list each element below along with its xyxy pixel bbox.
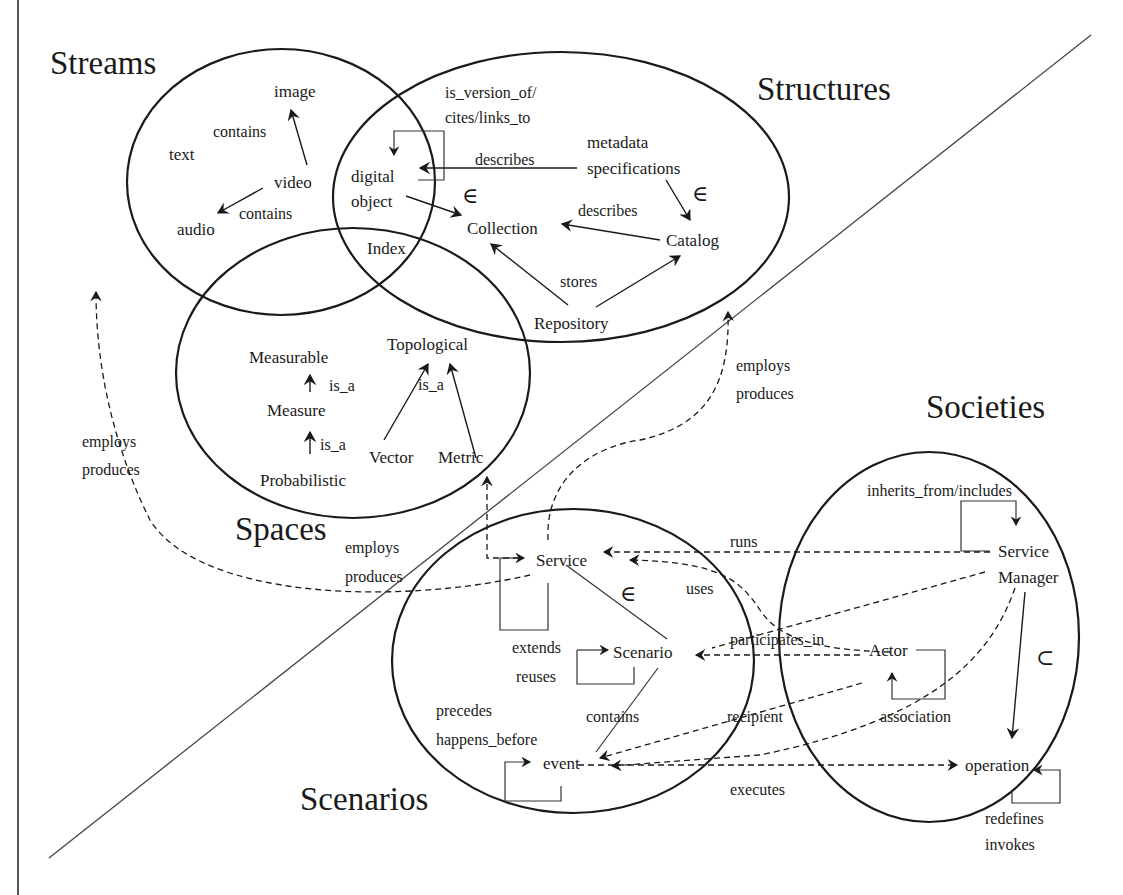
edge-inherits-from-includes: inherits_from/includes <box>867 482 1012 499</box>
dashed-manager-scenario <box>712 572 985 648</box>
societies-title: Societies <box>926 389 1045 425</box>
edge-recipient: recipient <box>727 708 784 726</box>
edge-contains-event: contains <box>586 708 639 725</box>
arrow-vector-topological <box>384 364 428 440</box>
edge-employs-streams: employs <box>82 433 136 451</box>
node-probabilistic: Probabilistic <box>260 471 346 490</box>
streams-title: Streams <box>50 45 156 81</box>
node-actor: Actor <box>869 641 908 660</box>
edge-is-a-probabilistic: is_a <box>320 436 346 453</box>
edge-executes: executes <box>730 781 785 798</box>
arrow-catalog-collection <box>562 224 660 240</box>
node-service-manager-line1: Service <box>998 542 1049 561</box>
node-operation: operation <box>965 756 1030 775</box>
edge-redefines: redefines <box>985 810 1044 827</box>
edge-precedes: precedes <box>436 702 492 720</box>
self-loop-event <box>505 762 530 801</box>
node-specifications: specifications <box>587 159 680 178</box>
concept-map-diagram: Streams Structures Spaces Scenarios Soci… <box>0 0 1123 895</box>
edge-is-a-topological: is_a <box>418 376 444 393</box>
edge-produces-structures: produces <box>736 385 794 403</box>
arrow-metadata-catalog <box>666 180 690 220</box>
element-of-catalog: ∈ <box>692 181 708 206</box>
edge-describes-digital-object: describes <box>475 151 535 168</box>
edge-extends: extends <box>512 639 561 656</box>
scenarios-title: Scenarios <box>300 781 428 817</box>
spaces-title: Spaces <box>235 511 327 547</box>
node-collection: Collection <box>467 219 538 238</box>
node-video: video <box>274 173 312 192</box>
edge-stores: stores <box>560 273 597 290</box>
node-audio: audio <box>177 220 215 239</box>
edge-cites-links-to: cites/links_to <box>445 109 530 126</box>
arrow-video-image <box>291 110 307 165</box>
arrow-metric-topological <box>450 364 476 458</box>
node-digital: digital <box>351 167 395 186</box>
edge-contains-image: contains <box>213 123 266 140</box>
edge-runs: runs <box>730 533 758 550</box>
arrow-repository-catalog <box>596 256 680 307</box>
element-of-scenario: ∈ <box>620 581 636 606</box>
node-service-manager-line2: Manager <box>998 568 1059 587</box>
node-metric: Metric <box>438 448 484 467</box>
node-vector: Vector <box>369 448 414 467</box>
edge-participates-in: participates_in <box>730 631 824 649</box>
diagonal-divider <box>49 35 1091 858</box>
edge-employs-structures: employs <box>736 357 790 375</box>
dashed-service-to-structures <box>548 312 728 540</box>
edge-describes-collection: describes <box>578 202 638 219</box>
edge-is-a-measure: is_a <box>329 377 355 394</box>
self-loop-digital-object <box>394 131 444 180</box>
structures-title: Structures <box>757 71 891 107</box>
node-metadata: metadata <box>587 133 649 152</box>
node-object: object <box>351 192 393 211</box>
element-of-collection: ∈ <box>462 183 478 208</box>
edge-association: association <box>880 708 951 725</box>
node-index: Index <box>367 239 406 258</box>
edge-produces-streams: produces <box>82 461 140 479</box>
dashed-manager-event <box>612 588 1015 766</box>
node-measurable: Measurable <box>249 348 328 367</box>
spaces-ellipse <box>176 228 530 518</box>
edge-reuses: reuses <box>516 668 556 685</box>
edge-uses: uses <box>686 580 714 597</box>
node-catalog: Catalog <box>666 231 719 250</box>
structures-ellipse <box>333 52 789 342</box>
node-text: text <box>169 145 195 164</box>
edge-contains-audio: contains <box>239 205 292 222</box>
self-loop-event-box <box>505 786 561 801</box>
node-event: event <box>543 754 580 773</box>
edge-is-version-of: is_version_of/ <box>445 84 537 101</box>
edge-happens-before: happens_before <box>436 731 537 749</box>
edge-employs-spaces: employs <box>345 539 399 557</box>
edge-invokes: invokes <box>985 836 1035 853</box>
node-service: Service <box>536 551 587 570</box>
element-of-line <box>566 565 667 639</box>
node-scenario: Scenario <box>613 643 672 662</box>
arrow-service-manager-operation <box>1012 592 1025 738</box>
node-topological: Topological <box>387 335 468 354</box>
edge-produces-spaces: produces <box>345 568 403 586</box>
node-image: image <box>274 82 316 101</box>
subset-of: ⊂ <box>1036 645 1054 670</box>
node-repository: Repository <box>534 314 609 333</box>
node-measure: Measure <box>267 401 326 420</box>
